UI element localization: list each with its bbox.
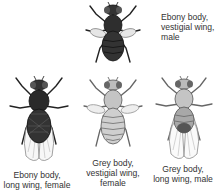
label-ebony-long-female: Ebony body, long wing, female [0,170,74,190]
label-line: vestigial wing, [161,22,215,32]
label-grey-vestigial-female: Grey body, vestigial wing, female [76,158,150,188]
label-line: vestigial wing, [76,168,150,178]
label-line: Ebony body, [0,170,74,180]
label-ebony-vestigial-male: Ebony body, vestigial wing, male [161,12,215,42]
label-line: Ebony body, [161,12,215,22]
fly-ebony-long-female [6,74,72,166]
fly-ebony-vestigial-male [78,0,148,72]
label-line: long wing, male [148,174,217,184]
fly-grey-long-male [152,74,216,162]
label-line: Grey body, [76,158,150,168]
label-line: Grey body, [148,164,217,174]
label-line: female [76,178,150,188]
fly-grey-vestigial-female [78,76,148,156]
label-grey-long-male: Grey body, long wing, male [148,164,217,184]
label-line: male [161,32,215,42]
label-line: long wing, female [0,180,74,190]
